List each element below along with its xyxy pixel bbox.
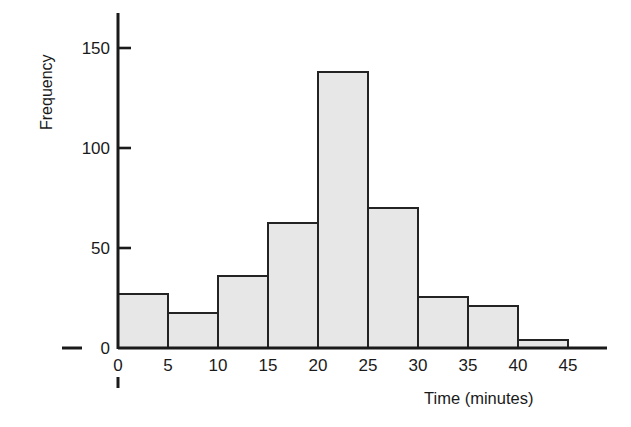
x-tick-label: 30 [409,356,428,375]
x-tick-label: 45 [559,356,578,375]
x-tick-label: 10 [209,356,228,375]
y-axis-tick-labels: 050100150 [82,39,110,358]
y-axis-ticks [118,48,131,248]
histogram-figure: 050100150 051015202530354045 Time (minut… [0,0,631,427]
histogram-bar [118,294,168,348]
x-tick-label: 35 [459,356,478,375]
histogram-bar [168,313,218,348]
y-tick-label: 50 [91,239,110,258]
x-tick-label: 40 [509,356,528,375]
x-tick-label: 25 [359,356,378,375]
histogram-bar [218,276,268,348]
x-axis-tick-labels: 051015202530354045 [113,356,577,375]
x-axis-title: Time (minutes) [424,389,533,407]
x-tick-label: 15 [259,356,278,375]
x-tick-label: 20 [309,356,328,375]
x-tick-label: 5 [163,356,172,375]
bar-series [118,72,568,348]
y-tick-label: 0 [101,339,110,358]
y-tick-label: 100 [82,139,110,158]
y-axis-title: Frequency [38,54,55,130]
histogram-bar [268,223,318,348]
x-tick-label: 0 [113,356,122,375]
y-tick-label: 150 [82,39,110,58]
histogram-bar [418,297,468,348]
histogram-bar [368,208,418,348]
histogram-canvas: 050100150 051015202530354045 Time (minut… [0,0,631,427]
histogram-bar [468,306,518,348]
histogram-bar [318,72,368,348]
